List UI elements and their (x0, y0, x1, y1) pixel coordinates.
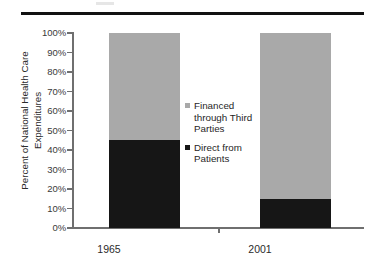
legend-label-third-parties-line-2: through Third (194, 112, 263, 124)
legend-label-third-parties-line-3: Parties (194, 123, 263, 135)
header-rule (21, 12, 364, 15)
legend-swatch-third-parties-icon (185, 103, 190, 108)
y-axis-tick-label: 70% (26, 87, 66, 97)
scan-artifact-speck (96, 2, 114, 5)
y-axis-tick-label: 60% (26, 106, 66, 116)
chart-legend: Financed through Third Parties Direct fr… (185, 100, 263, 172)
legend-label-direct-patients-line-1: Direct from (194, 142, 263, 154)
x-axis-category-tick (218, 228, 220, 233)
legend-label-direct-patients-line-2: Patients (194, 153, 263, 165)
bar-segment-third-parties-1965[interactable] (109, 33, 180, 140)
x-axis-label-1965: 1965 (49, 243, 169, 255)
y-axis-tick-label: 30% (26, 165, 66, 175)
bar-segment-direct-patients-1965[interactable] (109, 140, 180, 228)
bar-segment-direct-patients-2001[interactable] (260, 199, 331, 228)
y-axis-tick-label: 10% (26, 204, 66, 214)
y-axis-tick-labels: 100%90%80%70%60%50%40%30%20%10%0% (22, 0, 66, 269)
y-axis-tick-label: 50% (26, 126, 66, 136)
legend-swatch-direct-patients-icon (185, 145, 190, 150)
legend-label-third-parties-line-1: Financed (194, 100, 263, 112)
y-axis-tick-label: 80% (26, 67, 66, 77)
y-axis-tick-label: 100% (26, 28, 66, 38)
y-axis-tick-label: 90% (26, 48, 66, 58)
legend-entry-direct-patients[interactable]: Direct from Patients (185, 142, 263, 165)
y-axis-tick-label: 0% (26, 223, 66, 233)
y-axis-tick-label: 40% (26, 145, 66, 155)
chart-figure: Percent of National Health Care Expendit… (0, 0, 391, 269)
bar-segment-third-parties-2001[interactable] (260, 33, 331, 199)
x-axis-label-2001: 2001 (200, 243, 320, 255)
legend-entry-third-parties[interactable]: Financed through Third Parties (185, 100, 263, 135)
y-axis-tick-label: 20% (26, 184, 66, 194)
